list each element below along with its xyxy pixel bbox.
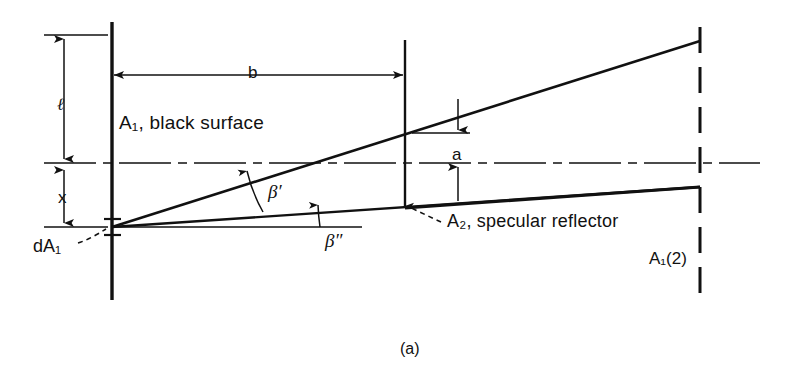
beta-prime-arc	[247, 171, 263, 212]
angle-label-beta-double-prime: β″	[325, 231, 342, 250]
dimension-label-x: x	[58, 189, 67, 206]
angle-label-beta-prime: β′	[268, 182, 282, 201]
diagram-canvas	[0, 0, 799, 384]
A2-leader	[409, 207, 441, 222]
figure-container: ℓ x b a A₁, black surface dA₁ β′ β″ A₂, …	[0, 0, 799, 384]
dimension-label-l: ℓ	[57, 96, 64, 113]
beta-double-prime-arc	[318, 205, 320, 227]
image-surface-label: A₁(2)	[649, 250, 687, 267]
specular-reflector-line	[405, 187, 700, 208]
dimension-label-b: b	[248, 64, 257, 81]
specular-reflector-label: A₂, specular reflector	[447, 212, 618, 230]
black-surface-label: A₁, black surface	[119, 113, 264, 132]
differential-area-label: dA₁	[33, 237, 61, 255]
figure-caption: (a)	[400, 341, 420, 357]
dA1-leader	[78, 229, 106, 243]
dimension-label-a: a	[452, 146, 461, 163]
